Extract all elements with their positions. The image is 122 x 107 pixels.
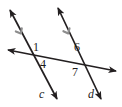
transversal-line [8,50,116,71]
figure-canvas [0,0,122,107]
geometry-figure: 1 4 6 7 c d [0,0,122,107]
parallel-line-d [58,8,101,99]
